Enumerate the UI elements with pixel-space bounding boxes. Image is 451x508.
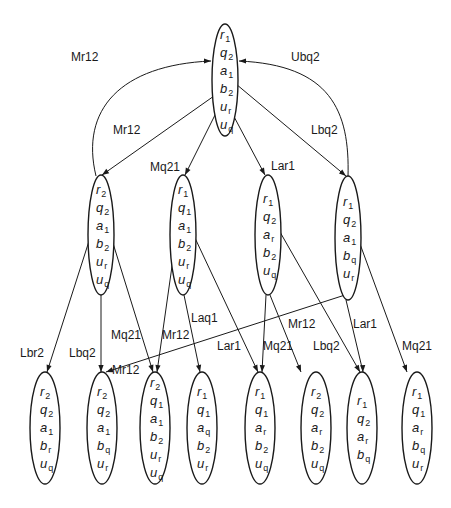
arrowhead-icon (102, 169, 109, 175)
edge-label: Lar1 (217, 339, 241, 353)
state-node-b6: r2q2arb2uq (301, 372, 331, 484)
state-node-m2: r1q1a1b2uruq (170, 175, 196, 295)
edge-mq21 (185, 113, 216, 175)
edge-label: Lbq2 (69, 346, 96, 360)
edge-lbq2 (98, 295, 103, 372)
arrowhead-icon (360, 365, 365, 372)
edge-line (360, 244, 407, 372)
edge-mr12 (270, 295, 301, 372)
state-node-b3: r2q1a1b2uruq (140, 372, 170, 484)
edge-label: Mr12 (112, 363, 140, 377)
edge-lar1 (231, 111, 265, 175)
edge-line (270, 295, 301, 372)
edge-label: Mq21 (402, 339, 432, 353)
edge-lar1 (346, 300, 365, 372)
edge-label: Mr12 (71, 50, 99, 64)
edge-mq21 (260, 295, 266, 372)
state-node-b8: r1q1arbqur (402, 372, 432, 484)
edge-label: Lbq2 (311, 123, 338, 137)
edge-line (262, 295, 266, 372)
edge-label: Mq21 (263, 339, 293, 353)
state-node-b1: r2q2a1bruq (30, 372, 60, 484)
edge-line (112, 240, 153, 372)
node-ellipse (347, 372, 377, 484)
state-node-m1: r2q2a1b2uruq (88, 175, 114, 295)
edge-label: Lar1 (353, 317, 377, 331)
arrowhead-icon (204, 58, 211, 63)
edge-line (185, 113, 216, 175)
state-node-m4: r1q2a1bqur (335, 176, 361, 300)
arrowhead-icon (402, 365, 407, 372)
state-tree-diagram: r1q2a1b2uruqr2q2a1b2uruqr1q1a1b2uruqr1q2… (0, 0, 451, 508)
edge-mq21 (112, 240, 153, 372)
state-node-root: r1q2a1b2uruq (212, 24, 238, 136)
edge-label: Lbr2 (20, 346, 44, 360)
arrowhead-icon (259, 168, 265, 175)
edge-line (106, 295, 345, 372)
arrowhead-icon (196, 365, 201, 372)
arrowhead-icon (155, 365, 160, 372)
arrowhead-icon (260, 365, 265, 372)
arrowhead-icon (354, 365, 360, 372)
diagram-canvas: r1q2a1b2uruqr2q2a1b2uruqr1q1a1b2uruqr1q2… (0, 0, 451, 508)
arrowhead-icon (185, 168, 190, 175)
edge-line (346, 300, 363, 372)
nodes-layer: r1q2a1b2uruqr2q2a1b2uruqr1q1a1b2uruqr1q2… (30, 24, 432, 484)
edge-label: Mq21 (111, 328, 141, 342)
edge-mr12 (106, 295, 345, 372)
edge-mq21 (360, 244, 407, 372)
state-node-b2: r2q2a1bqur (87, 372, 117, 484)
arrowhead-icon (239, 58, 246, 63)
arrowhead-icon (296, 365, 301, 372)
edge-label: Mr12 (162, 328, 190, 342)
arrowhead-icon (98, 365, 103, 372)
edge-label: Lar1 (271, 159, 295, 173)
edge-label: Mr12 (113, 123, 141, 137)
state-node-b7: r1q2arbq (347, 372, 377, 484)
arrowhead-icon (148, 365, 153, 372)
edge-label: Ubq2 (291, 50, 320, 64)
state-node-m3: r1q2arb2uq (255, 175, 281, 295)
edge-label: Mq21 (150, 160, 180, 174)
edge-label: Lbq2 (313, 339, 340, 353)
arrowhead-icon (47, 365, 52, 372)
edge-label: Laq1 (191, 311, 218, 325)
edge-line (231, 111, 265, 175)
state-node-b4: r1q1aqb2ur (187, 372, 217, 484)
arrowhead-icon (253, 365, 258, 372)
edge-label: Mr12 (288, 317, 316, 331)
state-node-b5: r1q1arb2uq (245, 372, 275, 484)
